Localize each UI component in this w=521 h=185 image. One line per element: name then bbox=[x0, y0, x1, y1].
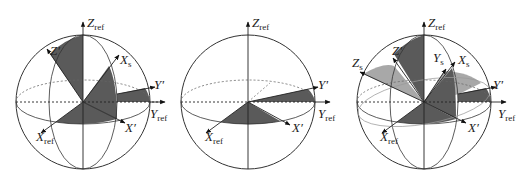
panel-c-label-ys: Ys bbox=[433, 50, 444, 67]
panel-a-sphere bbox=[16, 22, 165, 169]
wedge-y-yprime bbox=[117, 88, 150, 102]
panel-c-label-zprime: Z′ bbox=[392, 43, 402, 58]
panel-b-label-xref: Xref bbox=[204, 129, 223, 146]
panel-a-label-xprime: X′ bbox=[124, 120, 136, 135]
panel-a-label-zref: Zref bbox=[87, 15, 104, 32]
panel-a-label-zprime: Z′ bbox=[50, 43, 60, 58]
coordinate-frames-figure: Zref Yref Xref Z′ Y′ X′ Xs Zref Yref Xre… bbox=[0, 0, 521, 185]
wedge-x-xprime bbox=[221, 102, 280, 124]
panel-c-label-yref: Yref bbox=[498, 106, 515, 123]
panel-c-label-xref: Xref bbox=[379, 129, 398, 146]
panel-b-label-zref: Zref bbox=[252, 15, 269, 32]
panel-c-label-xs: Xs bbox=[457, 52, 470, 69]
panel-b-label-xprime: X′ bbox=[291, 120, 303, 135]
panel-b-sphere bbox=[181, 22, 330, 169]
panel-b-label-yprime: Y′ bbox=[318, 77, 328, 92]
panel-a-label-yref: Yref bbox=[150, 106, 167, 123]
panel-a-label-xref: Xref bbox=[35, 129, 54, 146]
panel-c-label-yprime: Y′ bbox=[493, 77, 503, 92]
panel-b-label-yref: Yref bbox=[318, 106, 335, 123]
panel-a-label-yprime: Y′ bbox=[154, 77, 164, 92]
panel-c-label-xprime: X′ bbox=[467, 120, 479, 135]
panel-c-label-zref: Zref bbox=[428, 15, 445, 32]
panel-c-sphere bbox=[354, 22, 506, 169]
panel-c-label-zs: Zs bbox=[352, 55, 363, 72]
